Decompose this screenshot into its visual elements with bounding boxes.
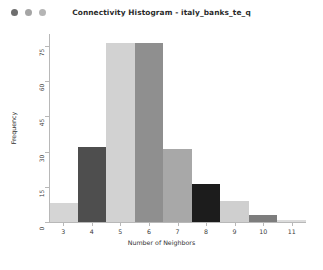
histogram-bar <box>78 147 107 222</box>
x-tick-mark <box>178 222 179 226</box>
x-tick-mark <box>206 222 207 226</box>
x-tick-label: 3 <box>54 228 72 235</box>
histogram-bar <box>135 43 164 222</box>
chart-figure: 01530456075 34567891011 Frequency Number… <box>0 26 323 270</box>
x-tick-label: 11 <box>283 228 301 235</box>
y-tick-mark <box>45 81 49 82</box>
x-tick-mark <box>63 222 64 226</box>
y-tick-mark <box>45 152 49 153</box>
x-tick-label: 5 <box>111 228 129 235</box>
histogram-bar <box>192 184 221 222</box>
x-tick-label: 8 <box>197 228 215 235</box>
x-tick-mark <box>149 222 150 226</box>
x-tick-mark <box>292 222 293 226</box>
x-tick-label: 9 <box>226 228 244 235</box>
y-tick-mark <box>45 116 49 117</box>
x-tick-mark <box>92 222 93 226</box>
y-tick-label: 75 <box>38 45 45 59</box>
histogram-bar <box>249 215 278 222</box>
histogram-bars <box>49 34 306 222</box>
app-window: Connectivity Histogram - italy_banks_te_… <box>0 0 323 270</box>
x-axis-label: Number of Neighbors <box>0 239 323 246</box>
window-title: Connectivity Histogram - italy_banks_te_… <box>0 8 323 17</box>
y-tick-label: 30 <box>38 151 45 165</box>
y-tick-label: 60 <box>38 81 45 95</box>
x-tick-label: 4 <box>83 228 101 235</box>
x-tick-label: 6 <box>140 228 158 235</box>
x-tick-label: 7 <box>169 228 187 235</box>
y-tick-label: 15 <box>38 186 45 200</box>
y-axis-line <box>49 34 50 222</box>
y-tick-mark <box>45 46 49 47</box>
title-bar: Connectivity Histogram - italy_banks_te_… <box>0 0 323 26</box>
y-tick-label: 45 <box>38 116 45 130</box>
plot-area <box>49 34 306 222</box>
histogram-bar <box>220 201 249 222</box>
y-tick-label: 0 <box>38 222 45 236</box>
x-tick-mark <box>120 222 121 226</box>
x-tick-mark <box>235 222 236 226</box>
histogram-bar <box>163 149 192 222</box>
histogram-bar <box>49 203 78 222</box>
y-axis-label: Frequency <box>10 112 17 145</box>
y-tick-mark <box>45 187 49 188</box>
histogram-bar <box>106 43 135 222</box>
y-tick-mark <box>45 222 49 223</box>
x-tick-mark <box>263 222 264 226</box>
x-tick-label: 10 <box>254 228 272 235</box>
